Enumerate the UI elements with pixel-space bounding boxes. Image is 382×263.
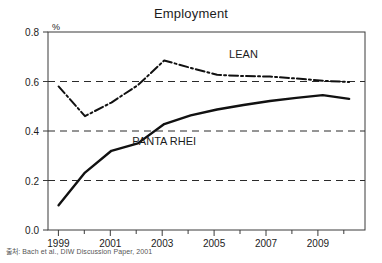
y-axis-ticks <box>43 32 48 230</box>
series-label-panta-rhei: PANTA RHEI <box>132 135 196 147</box>
line-chart-plot: 0.0 0.2 0.4 0.6 0.8 % 1999 2001 2003 200… <box>0 0 382 263</box>
x-tick-label-2003: 2003 <box>151 238 174 249</box>
chart-figure: Employment 0.0 0.2 0.4 0.6 0.8 % <box>0 0 382 263</box>
y-tick-label-0-4: 0.4 <box>25 126 39 137</box>
series-label-lean: LEAN <box>229 48 258 60</box>
y-tick-label-0-8: 0.8 <box>25 27 39 38</box>
source-note: 출처: Bach et al., DIW Discussion Paper, 2… <box>6 246 152 256</box>
y-tick-label-0-2: 0.2 <box>25 176 39 187</box>
x-tick-label-2005: 2005 <box>203 238 226 249</box>
x-tick-label-2009: 2009 <box>307 238 330 249</box>
y-axis-unit-label: % <box>52 22 60 32</box>
y-tick-label-0-6: 0.6 <box>25 77 39 88</box>
x-axis-ticks <box>58 230 343 236</box>
x-tick-label-2007: 2007 <box>255 238 278 249</box>
y-tick-label-0-0: 0.0 <box>25 225 39 236</box>
